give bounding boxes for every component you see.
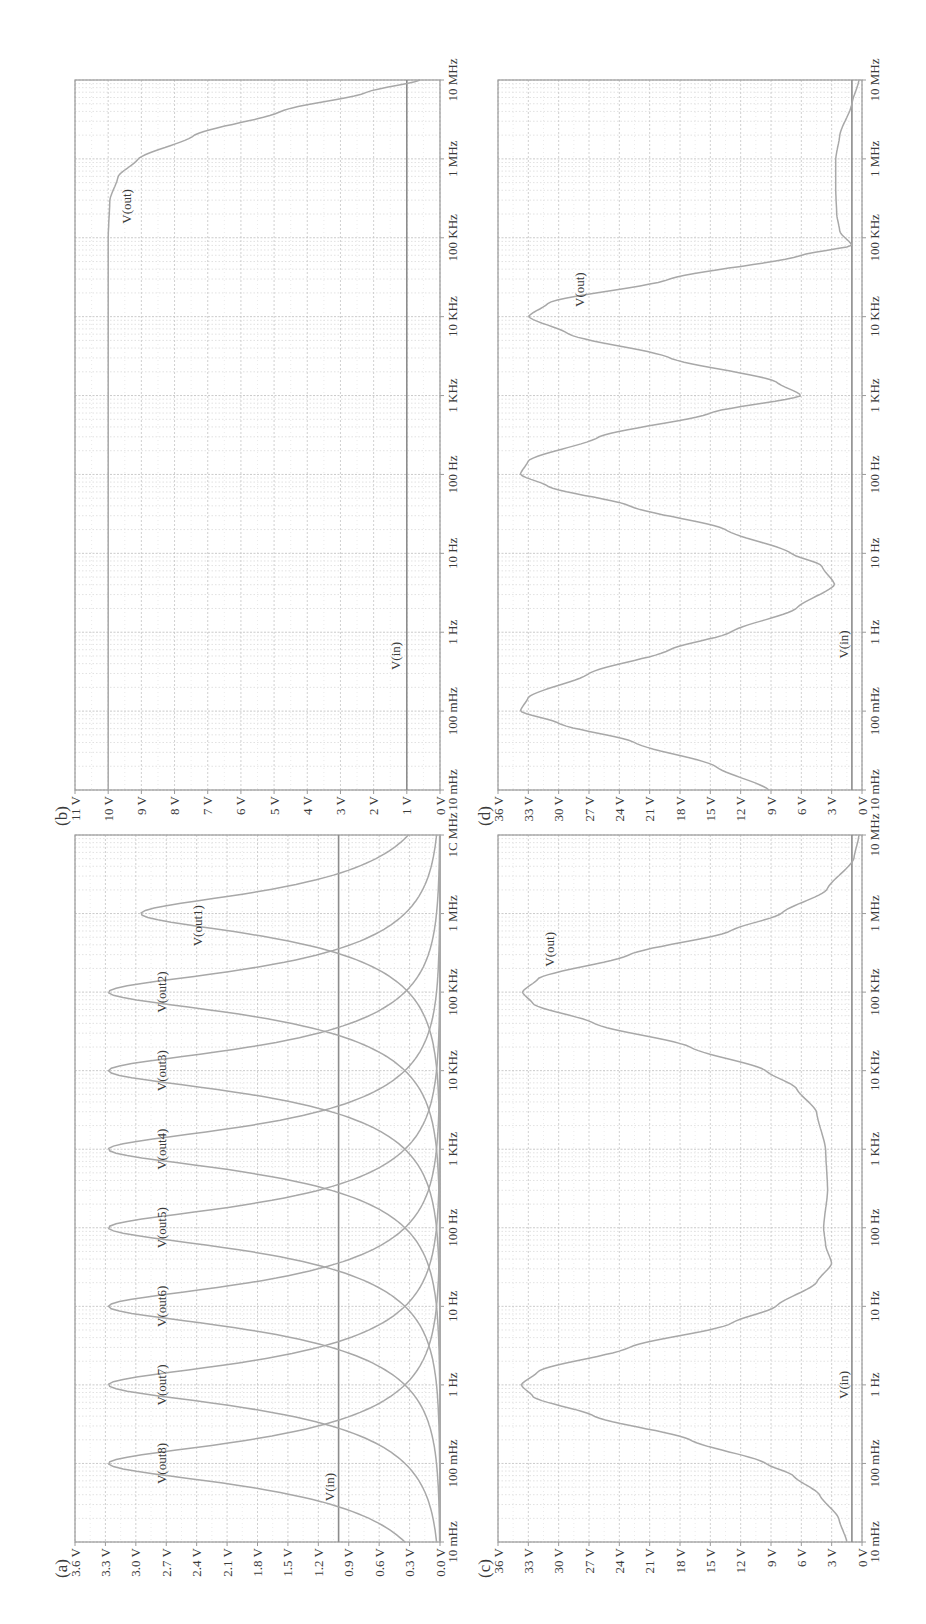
voltage-tick-label: 21 V — [642, 795, 657, 821]
trace-vout — [520, 80, 859, 790]
trace-vout1 — [141, 835, 440, 1542]
voltage-tick-label: 33 V — [521, 795, 536, 821]
series-label: V(in) — [388, 642, 403, 670]
frequency-tick-label: 10 mHz — [867, 1521, 882, 1563]
voltage-tick-label: 0.6 V — [372, 1547, 387, 1576]
grid — [498, 80, 862, 790]
frequency-tick-label: 10 mHz — [445, 769, 460, 811]
series-label: V(out5) — [154, 1207, 169, 1248]
series-label: V(out3) — [154, 1050, 169, 1091]
series-label: V(in) — [322, 1473, 337, 1501]
figure-canvas: 11 V10 V9 V8 V7 V6 V5 V4 V3 V2 V1 V0 V10… — [0, 0, 926, 1624]
trace-vout8 — [109, 835, 440, 1542]
frequency-tick-label: 10 KHz — [867, 1050, 882, 1091]
voltage-tick-label: 9 V — [134, 795, 149, 815]
voltage-tick-label: 5 V — [267, 795, 282, 815]
series-label: V(out) — [119, 189, 134, 224]
frequency-tick-label: 100 KHz — [867, 968, 882, 1016]
frequency-tick-label: 100 Hz — [445, 1209, 460, 1247]
series-label: V(out2) — [154, 972, 169, 1013]
panel-label: (d) — [475, 806, 494, 826]
frequency-tick-label: 1 MHz — [867, 895, 882, 932]
voltage-tick-label: 27 V — [582, 795, 597, 821]
series-label: V(out) — [572, 272, 587, 307]
grid — [75, 835, 440, 1542]
traces — [109, 835, 441, 1542]
frequency-tick-label: 100 mHz — [867, 1439, 882, 1487]
voltage-tick-label: 9 V — [764, 795, 779, 815]
voltage-axis-ticks: 36 V33 V30 V27 V24 V21 V18 V15 V12 V9 V6… — [491, 790, 870, 821]
series-label: V(in) — [836, 1371, 851, 1399]
frequency-tick-label: 10 KHz — [445, 1050, 460, 1091]
voltage-tick-label: 2.7 V — [159, 1547, 174, 1576]
frequency-tick-label: 100 KHz — [445, 968, 460, 1016]
frequency-tick-label: 10 Hz — [867, 1290, 882, 1322]
trace-vout — [521, 835, 859, 1542]
traces — [521, 835, 859, 1542]
voltage-tick-label: 1.2 V — [311, 1547, 326, 1576]
voltage-tick-label: 1.8 V — [250, 1547, 265, 1576]
series-label: V(out6) — [154, 1286, 169, 1327]
voltage-tick-label: 0.3 V — [402, 1547, 417, 1576]
series-label: V(out) — [542, 932, 557, 967]
voltage-tick-label: 3 V — [824, 1547, 839, 1567]
frequency-tick-label: 1 KHz — [445, 1132, 460, 1167]
panel-b-chart: 11 V10 V9 V8 V7 V6 V5 V4 V3 V2 V1 V0 V10… — [52, 58, 460, 826]
voltage-tick-label: 12 V — [733, 1547, 748, 1573]
frequency-tick-label: 100 mHz — [445, 1439, 460, 1487]
voltage-tick-label: 3.3 V — [98, 1547, 113, 1576]
voltage-axis-ticks: 11 V10 V9 V8 V7 V6 V5 V4 V3 V2 V1 V0 V — [68, 790, 448, 821]
frequency-tick-label: 1 Hz — [445, 620, 460, 645]
panel-label: (b) — [52, 806, 71, 826]
voltage-tick-label: 24 V — [612, 1547, 627, 1573]
voltage-tick-label: 1 V — [399, 795, 414, 815]
panel-label: (a) — [52, 1559, 71, 1578]
voltage-tick-label: 9 V — [764, 1547, 779, 1567]
frequency-tick-label: 10 MHz — [445, 58, 460, 101]
frequency-tick-label: 10 KHz — [867, 296, 882, 337]
frequency-tick-label: 10 MHz — [867, 813, 882, 856]
frequency-axis-ticks: 10 mHz100 mHz1 Hz10 Hz100 Hz1 KHz10 KHz1… — [440, 58, 460, 810]
voltage-tick-label: 0.9 V — [341, 1547, 356, 1576]
frequency-tick-label: 100 KHz — [867, 214, 882, 262]
frequency-tick-label: 1 Hz — [867, 1372, 882, 1397]
frequency-tick-label: 10 Hz — [867, 537, 882, 569]
frequency-tick-label: 10 Hz — [445, 537, 460, 569]
voltage-tick-label: 24 V — [612, 795, 627, 821]
voltage-tick-label: 3 V — [333, 795, 348, 815]
voltage-tick-label: 7 V — [200, 795, 215, 815]
frequency-tick-label: 10 Hz — [445, 1290, 460, 1322]
frequency-tick-label: 1C MHz — [445, 812, 460, 857]
frequency-tick-label: 10 mHz — [445, 1521, 460, 1563]
frequency-tick-label: 10 MHz — [867, 58, 882, 101]
series-label: V(out4) — [154, 1129, 169, 1170]
frequency-tick-label: 100 Hz — [867, 1209, 882, 1247]
series-label: V(out1) — [190, 905, 205, 946]
voltage-tick-label: 8 V — [167, 795, 182, 815]
voltage-tick-label: 6 V — [794, 795, 809, 815]
voltage-tick-label: 3.0 V — [128, 1547, 143, 1576]
frequency-tick-label: 100 mHz — [445, 687, 460, 735]
frequency-tick-label: 1 Hz — [445, 1372, 460, 1397]
frequency-tick-label: 10 mHz — [867, 769, 882, 811]
trace-vout — [108, 80, 420, 790]
voltage-tick-label: 21 V — [642, 1547, 657, 1573]
frequency-tick-label: 1 KHz — [445, 378, 460, 413]
frequency-tick-label: 1 Hz — [867, 620, 882, 645]
voltage-tick-label: 6 V — [233, 795, 248, 815]
voltage-tick-label: 2 V — [366, 795, 381, 815]
voltage-tick-label: 30 V — [551, 1547, 566, 1573]
grid — [75, 80, 440, 790]
series-label: V(out8) — [154, 1443, 169, 1484]
voltage-tick-label: 15 V — [703, 795, 718, 821]
frequency-tick-label: 1 KHz — [867, 1132, 882, 1167]
voltage-tick-label: 33 V — [521, 1547, 536, 1573]
frequency-tick-label: 100 KHz — [445, 214, 460, 262]
voltage-tick-label: 1.5 V — [280, 1547, 295, 1576]
panel-label: (c) — [475, 1559, 494, 1578]
frequency-tick-label: 1 MHz — [867, 140, 882, 177]
plot-frame — [498, 80, 862, 790]
frequency-tick-label: 100 mHz — [867, 687, 882, 735]
voltage-axis-ticks: 36 V33 V30 V27 V24 V21 V18 V15 V12 V9 V6… — [491, 1542, 870, 1573]
series-label: V(in) — [836, 630, 851, 658]
